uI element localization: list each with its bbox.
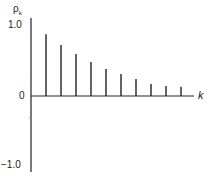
y-tick-label-1: 1.0 bbox=[8, 20, 22, 30]
y-tick-label-0: 0 bbox=[19, 91, 25, 101]
x-axis-label: k bbox=[198, 90, 204, 100]
y-axis-label: ρk bbox=[13, 4, 22, 18]
bars bbox=[46, 34, 181, 96]
y-tick-label-neg1: −1.0 bbox=[1, 160, 21, 170]
autocorrelation-chart bbox=[0, 0, 209, 180]
